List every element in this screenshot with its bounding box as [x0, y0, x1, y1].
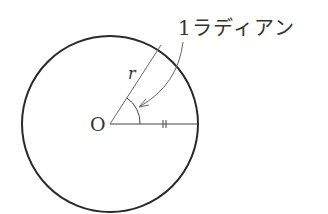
radius-label: r [128, 64, 136, 83]
center-label: O [90, 113, 106, 135]
radian-label: 1ラディアン [178, 12, 295, 41]
arrow-head-icon [139, 99, 149, 107]
radius-slanted [110, 45, 161, 124]
angle-arc [127, 98, 140, 124]
